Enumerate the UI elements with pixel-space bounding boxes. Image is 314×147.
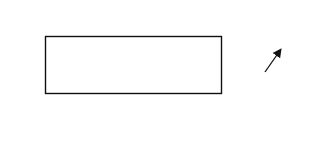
spin-chain-diagram	[0, 0, 314, 147]
chain-box	[46, 37, 222, 94]
state-arrow-icon	[265, 52, 279, 72]
